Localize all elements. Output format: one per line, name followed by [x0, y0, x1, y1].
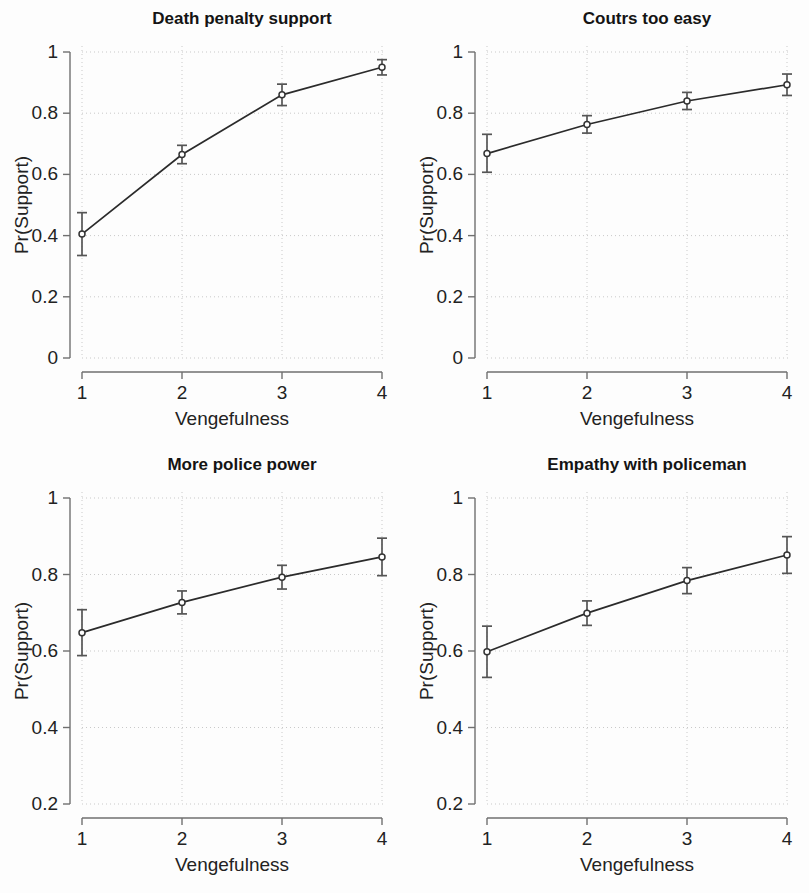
x-axis: 1234 — [77, 818, 388, 849]
chart-svg: Coutrs too easy00.20.40.60.811234Vengefu… — [405, 0, 809, 446]
x-tick-label: 2 — [177, 828, 188, 849]
chart-panel-empathy-with-policeman: Empathy with policeman0.20.40.60.811234V… — [405, 446, 809, 892]
y-axis-title: Pr(Support) — [11, 156, 32, 254]
data-point-markers — [484, 82, 790, 157]
x-axis-title: Vengefulness — [580, 408, 694, 429]
grid-lines — [82, 46, 384, 358]
y-tick-label: 0.6 — [32, 640, 58, 661]
y-tick-label: 0.8 — [32, 564, 58, 585]
x-tick-label: 3 — [277, 382, 288, 403]
panel-title: More police power — [167, 455, 317, 474]
data-point — [684, 578, 690, 584]
y-tick-label: 0 — [452, 347, 463, 368]
y-tick-label: 0 — [47, 347, 58, 368]
y-axis-title: Pr(Support) — [11, 602, 32, 700]
data-point — [584, 122, 590, 128]
x-axis-title: Vengefulness — [580, 854, 694, 875]
error-bars — [77, 60, 387, 256]
y-tick-label: 1 — [47, 41, 58, 62]
x-tick-label: 2 — [177, 382, 188, 403]
data-point — [379, 554, 385, 560]
error-bars — [482, 537, 792, 678]
y-axis: 0.20.40.60.81 — [32, 487, 70, 814]
data-point — [279, 574, 285, 580]
y-tick-label: 0.8 — [437, 564, 463, 585]
y-tick-label: 0.4 — [437, 225, 464, 246]
chart-panel-coutrs-too-easy: Coutrs too easy00.20.40.60.811234Vengefu… — [405, 0, 809, 446]
y-tick-label: 0.4 — [32, 717, 59, 738]
series-line — [487, 85, 787, 154]
x-tick-label: 3 — [682, 382, 693, 403]
y-tick-label: 0.6 — [437, 163, 463, 184]
series-line — [82, 67, 382, 234]
y-axis: 00.20.40.60.81 — [437, 41, 475, 368]
x-tick-label: 4 — [782, 828, 793, 849]
y-tick-label: 0.4 — [32, 225, 59, 246]
x-tick-label: 1 — [77, 382, 88, 403]
x-axis: 1234 — [482, 372, 793, 403]
data-point — [79, 231, 85, 237]
y-tick-label: 1 — [452, 41, 463, 62]
y-axis: 00.20.40.60.81 — [32, 41, 70, 368]
panel-title: Coutrs too easy — [583, 9, 712, 28]
y-tick-label: 1 — [47, 487, 58, 508]
y-axis: 0.20.40.60.81 — [437, 487, 475, 814]
data-point — [484, 649, 490, 655]
y-tick-label: 0.8 — [32, 102, 58, 123]
x-tick-label: 1 — [482, 382, 493, 403]
x-tick-label: 4 — [782, 382, 793, 403]
x-axis-title: Vengefulness — [175, 408, 289, 429]
data-point — [79, 630, 85, 636]
data-point — [379, 64, 385, 70]
data-point — [279, 92, 285, 98]
chart-panel-death-penalty-support: Death penalty support00.20.40.60.811234V… — [0, 0, 404, 446]
y-axis-title: Pr(Support) — [416, 156, 437, 254]
series-line — [487, 555, 787, 652]
data-point-markers — [484, 552, 790, 655]
data-point — [584, 610, 590, 616]
chart-svg: Empathy with policeman0.20.40.60.811234V… — [405, 446, 809, 892]
grid-lines — [82, 492, 384, 804]
error-bars — [482, 74, 792, 172]
x-tick-label: 1 — [482, 828, 493, 849]
x-axis: 1234 — [77, 372, 388, 403]
y-tick-label: 0.6 — [32, 163, 58, 184]
y-axis-title: Pr(Support) — [416, 602, 437, 700]
data-point — [179, 152, 185, 158]
x-tick-label: 1 — [77, 828, 88, 849]
data-point-markers — [79, 64, 385, 237]
y-tick-label: 0.2 — [32, 793, 58, 814]
error-bars — [77, 538, 387, 655]
chart-panel-more-police-power: More police power0.20.40.60.811234Vengef… — [0, 446, 404, 892]
data-point — [684, 98, 690, 104]
grid-lines — [487, 492, 789, 804]
series-line — [82, 557, 382, 633]
data-point — [784, 552, 790, 558]
grid-lines — [487, 46, 789, 358]
y-tick-label: 0.6 — [437, 640, 463, 661]
figure-panel-grid: Death penalty support00.20.40.60.811234V… — [0, 0, 809, 893]
x-axis-title: Vengefulness — [175, 854, 289, 875]
y-tick-label: 0.2 — [437, 793, 463, 814]
x-tick-label: 2 — [582, 828, 593, 849]
data-point — [784, 82, 790, 88]
x-axis: 1234 — [482, 818, 793, 849]
y-tick-label: 0.2 — [437, 286, 463, 307]
y-tick-label: 0.2 — [32, 286, 58, 307]
data-point — [179, 599, 185, 605]
x-tick-label: 2 — [582, 382, 593, 403]
x-tick-label: 3 — [277, 828, 288, 849]
panel-title: Death penalty support — [152, 9, 332, 28]
chart-svg: More police power0.20.40.60.811234Vengef… — [0, 446, 404, 892]
y-tick-label: 1 — [452, 487, 463, 508]
y-tick-label: 0.8 — [437, 102, 463, 123]
x-tick-label: 3 — [682, 828, 693, 849]
x-tick-label: 4 — [377, 382, 388, 403]
y-tick-label: 0.4 — [437, 717, 464, 738]
panel-title: Empathy with policeman — [547, 455, 746, 474]
chart-svg: Death penalty support00.20.40.60.811234V… — [0, 0, 404, 446]
x-tick-label: 4 — [377, 828, 388, 849]
data-point — [484, 151, 490, 157]
